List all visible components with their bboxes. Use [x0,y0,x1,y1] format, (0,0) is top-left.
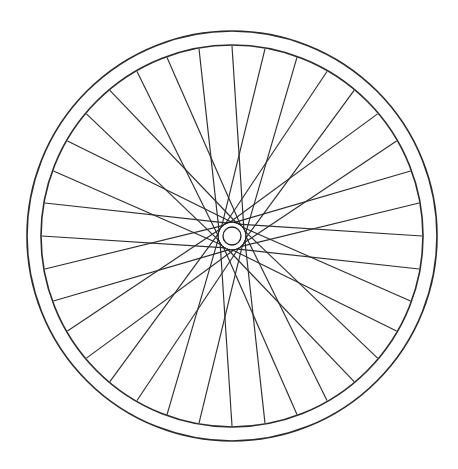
spoke-line [245,57,297,234]
spoke-line [110,90,237,223]
spoke-line [245,231,378,358]
spoke-line [227,249,354,382]
spoke-line [53,171,222,245]
spoke-line [245,236,327,401]
spoke-line [234,171,411,223]
drawing-canvas [0,0,458,469]
spoke-line [232,46,244,230]
hub-core-circle [223,227,241,245]
spoke-line [42,236,226,248]
wheel-hub-group [218,222,246,250]
spoke-line [242,227,411,301]
spoke-line [220,242,232,426]
spoke-line [53,249,230,301]
spoke-line [223,246,297,415]
spoke-line [67,141,232,223]
spoke-line [86,114,219,241]
spoke-line [137,71,219,236]
spoke-line [232,249,397,331]
spoke-line [238,224,422,236]
spoke-line [167,238,219,415]
spoke-line [167,57,241,226]
bicycle-wheel-illustration [0,0,458,469]
